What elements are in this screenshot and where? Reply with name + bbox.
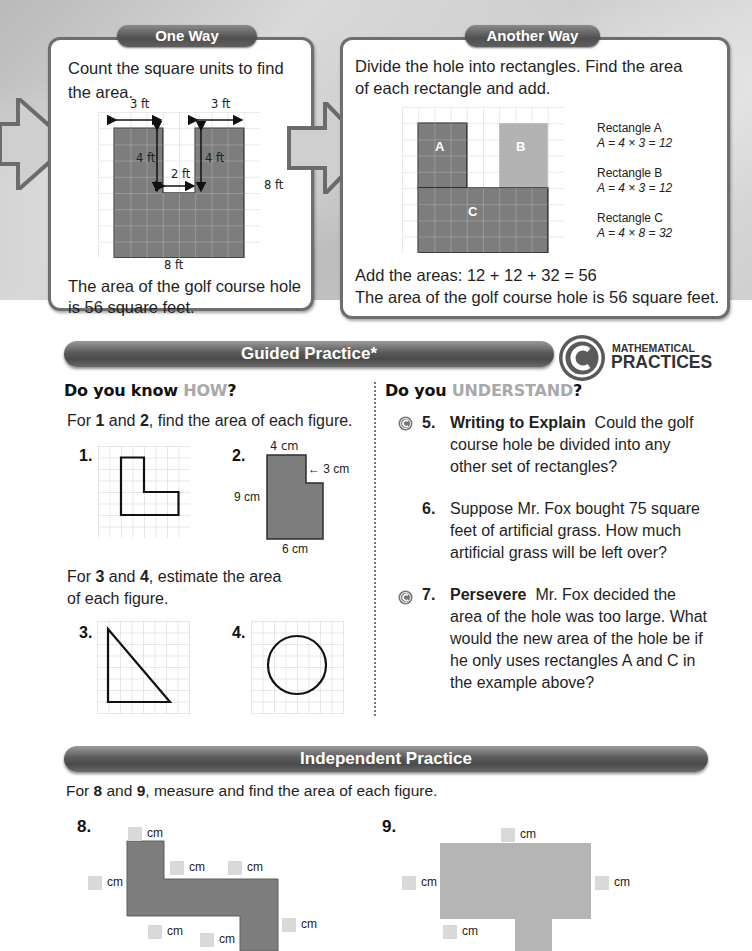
q9-right-measure: cm bbox=[595, 875, 630, 890]
rect-a-label: A bbox=[435, 139, 444, 154]
guided-practice-header: Guided Practice* bbox=[64, 341, 554, 367]
answer-blank[interactable] bbox=[128, 827, 142, 841]
answer-blank[interactable] bbox=[402, 876, 416, 890]
question-8-number: 8. bbox=[77, 817, 91, 837]
question-5: 5. Writing to Explain Could the golf cou… bbox=[422, 412, 742, 482]
rect-b-label: B bbox=[516, 139, 525, 154]
understand-heading: Do you UNDERSTAND? bbox=[385, 381, 582, 400]
another-way-grid-figure bbox=[402, 107, 564, 253]
q8-top-measure: cm bbox=[128, 826, 163, 841]
answer-blank[interactable] bbox=[200, 933, 214, 947]
another-way-tab: Another Way bbox=[465, 25, 600, 47]
question-3-triangle-figure bbox=[97, 621, 191, 715]
question-1-number: 1. bbox=[79, 447, 92, 465]
one-way-grid-figure bbox=[98, 112, 262, 258]
answer-blank[interactable] bbox=[443, 925, 457, 939]
another-way-intro: Divide the hole into rectangles. Find th… bbox=[355, 55, 682, 99]
how-instruction-2: For 3 and 4, estimate the area of each f… bbox=[67, 566, 281, 610]
question-1-l-shape-figure bbox=[98, 446, 191, 538]
q8-bottom-left-measure: cm bbox=[148, 924, 183, 939]
answer-blank[interactable] bbox=[148, 925, 162, 939]
label-left-4ft: 4 ft bbox=[136, 151, 155, 165]
answer-blank[interactable] bbox=[501, 828, 515, 842]
q2-label-bottom: 6 cm bbox=[282, 542, 308, 556]
arrow-left-icon: ← bbox=[308, 462, 320, 476]
q8-right-measure: cm bbox=[282, 917, 317, 932]
q8-bottom-inner-measure: cm bbox=[200, 932, 235, 947]
one-way-conclusion: The area of the golf course hole is 56 s… bbox=[68, 276, 301, 318]
one-way-tab: One Way bbox=[117, 25, 257, 47]
mp-logo-bottom: PRACTICES bbox=[611, 354, 712, 372]
question-6: 6. Suppose Mr. Fox bought 75 square feet… bbox=[422, 498, 742, 568]
another-way-conclusion: Add the areas: 12 + 12 + 32 = 56 The are… bbox=[355, 264, 719, 308]
q2-label-top: 4 cm bbox=[270, 439, 299, 453]
question-4-number: 4. bbox=[232, 624, 245, 642]
how-heading: Do you know HOW? bbox=[64, 381, 236, 400]
column-divider bbox=[374, 382, 376, 716]
answer-blank[interactable] bbox=[595, 876, 609, 890]
label-gap-2ft: 2 ft bbox=[171, 167, 190, 181]
rect-c-label: C bbox=[468, 204, 477, 219]
mathematical-practices-logo-icon bbox=[557, 333, 607, 383]
one-way-intro: Count the square units to find the area. bbox=[68, 56, 284, 104]
question-2-number: 2. bbox=[232, 447, 245, 465]
question-7: 7. Persevere Mr. Fox decided the area of… bbox=[422, 584, 742, 694]
answer-blank[interactable] bbox=[228, 861, 242, 875]
rectangle-b-info: Rectangle B A = 4 × 3 = 12 bbox=[597, 166, 672, 196]
independent-practice-header: Independent Practice bbox=[64, 746, 708, 772]
q8-top-right-measure: cm bbox=[228, 860, 263, 875]
q9-top-measure: cm bbox=[501, 827, 536, 842]
question-9-number: 9. bbox=[382, 817, 396, 837]
answer-blank[interactable] bbox=[282, 918, 296, 932]
q8-inner-step-measure: cm bbox=[170, 860, 205, 875]
math-practice-icon bbox=[398, 590, 413, 605]
question-4-circle-figure bbox=[251, 621, 345, 715]
math-practice-icon bbox=[398, 416, 413, 431]
label-top-right-3ft: 3 ft bbox=[211, 97, 230, 111]
how-instruction-1: For 1 and 2, find the area of each figur… bbox=[67, 410, 353, 432]
question-3-number: 3. bbox=[79, 624, 92, 642]
label-bottom-8ft: 8 ft bbox=[164, 258, 183, 272]
independent-instruction: For 8 and 9, measure and find the area o… bbox=[66, 780, 437, 802]
rectangle-a-info: Rectangle A A = 4 × 3 = 12 bbox=[597, 121, 672, 151]
answer-blank[interactable] bbox=[170, 861, 184, 875]
label-right-4ft: 4 ft bbox=[205, 151, 224, 165]
q2-label-left: 9 cm bbox=[234, 490, 260, 504]
q2-label-notch: ← 3 cm bbox=[308, 462, 349, 476]
answer-blank[interactable] bbox=[88, 876, 102, 890]
rectangle-c-info: Rectangle C A = 4 × 8 = 32 bbox=[597, 211, 672, 241]
label-side-8ft: 8 ft bbox=[264, 178, 283, 192]
q9-bottom-left-measure: cm bbox=[443, 924, 478, 939]
q8-left-measure: cm bbox=[88, 875, 123, 890]
label-top-left-3ft: 3 ft bbox=[130, 97, 149, 111]
q9-left-measure: cm bbox=[402, 875, 437, 890]
